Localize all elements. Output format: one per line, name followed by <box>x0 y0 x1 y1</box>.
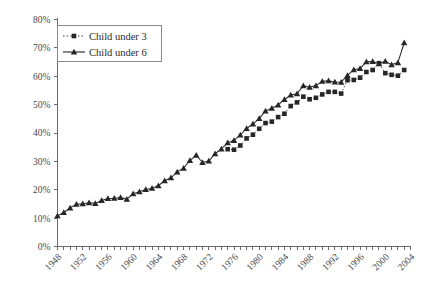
y-tick-label: 50% <box>33 100 51 110</box>
x-tick-label: 1952 <box>68 252 89 273</box>
data-point-marker <box>232 147 237 152</box>
x-tick-label: 1968 <box>169 252 190 273</box>
data-point-marker <box>161 177 167 183</box>
data-point-marker <box>257 126 262 131</box>
chart-legend: Child under 3Child under 6 <box>57 25 161 61</box>
x-tick-label: 1972 <box>194 252 215 273</box>
x-tick-label: 1960 <box>119 252 140 273</box>
data-point-marker <box>263 121 268 126</box>
data-point-marker <box>61 209 67 215</box>
x-tick-label: 2004 <box>396 252 417 273</box>
data-point-marker <box>313 82 319 88</box>
y-tick-label: 30% <box>33 157 51 167</box>
x-axis-group: 1948195219561960196419681972197619801984… <box>43 247 417 273</box>
x-tick-label: 1956 <box>93 252 114 273</box>
line-chart: 0%10%20%30%40%50%60%70%80% 1948195219561… <box>0 0 438 293</box>
y-tick-label: 0% <box>38 242 51 252</box>
data-point-marker <box>193 152 199 158</box>
x-tick-label: 1992 <box>320 252 341 273</box>
x-tick-label: 1948 <box>43 252 64 273</box>
data-point-marker <box>383 71 388 76</box>
x-axis-ticks: 1948195219561960196419681972197619801984… <box>43 252 417 273</box>
series-layer <box>54 40 407 219</box>
y-tick-label: 60% <box>33 72 51 82</box>
y-tick-label: 40% <box>33 128 51 138</box>
data-point-marker <box>320 92 325 97</box>
data-point-marker <box>270 119 275 124</box>
legend-label: Child under 3 <box>89 31 147 42</box>
data-point-marker <box>402 68 407 73</box>
data-point-marker <box>389 73 394 78</box>
data-point-marker <box>243 125 249 131</box>
data-point-marker <box>325 78 331 84</box>
data-point-marker <box>174 169 180 175</box>
y-tick-label: 20% <box>33 185 51 195</box>
data-point-marker <box>244 136 249 141</box>
data-point-marker <box>345 78 350 83</box>
data-point-marker <box>251 132 256 137</box>
data-point-marker <box>117 194 123 200</box>
chart-container: 0%10%20%30%40%50%60%70%80% 1948195219561… <box>0 0 438 293</box>
data-point-marker <box>395 59 401 65</box>
data-point-marker <box>382 58 388 64</box>
data-point-marker <box>295 100 300 105</box>
y-axis-group: 0%10%20%30%40%50%60%70%80% <box>33 15 57 252</box>
data-point-marker <box>351 78 356 83</box>
x-tick-label: 1984 <box>270 252 291 273</box>
series-2 <box>54 40 407 219</box>
data-point-marker <box>281 96 287 102</box>
data-point-marker <box>238 143 243 148</box>
data-point-marker <box>269 105 275 111</box>
data-point-marker <box>314 96 319 101</box>
x-tick-label: 1996 <box>345 252 366 273</box>
data-point-marker <box>67 205 73 211</box>
data-point-marker <box>282 111 287 116</box>
x-tick-label: 1976 <box>219 252 240 273</box>
x-tick-label: 1980 <box>245 252 266 273</box>
data-point-marker <box>225 147 230 152</box>
x-tick-label: 1988 <box>295 252 316 273</box>
data-point-marker <box>301 94 306 99</box>
x-tick-label: 2000 <box>371 252 392 273</box>
y-tick-label: 70% <box>33 43 51 53</box>
data-point-marker <box>276 115 281 120</box>
data-point-marker <box>401 40 407 46</box>
y-tick-label: 10% <box>33 214 51 224</box>
data-point-marker <box>300 82 306 88</box>
data-point-marker <box>370 68 375 73</box>
data-point-marker <box>54 213 60 219</box>
legend-marker-square <box>72 34 77 39</box>
data-point-marker <box>364 70 369 75</box>
x-tick-label: 1964 <box>144 252 165 273</box>
series-line <box>58 43 405 216</box>
data-point-marker <box>288 104 293 109</box>
data-point-marker <box>396 73 401 78</box>
data-point-marker <box>326 90 331 95</box>
data-point-marker <box>358 75 363 80</box>
data-point-marker <box>307 97 312 102</box>
y-axis-ticks: 0%10%20%30%40%50%60%70%80% <box>33 15 57 252</box>
legend-label: Child under 6 <box>89 47 147 58</box>
series-1 <box>225 61 406 152</box>
y-tick-label: 80% <box>33 15 51 25</box>
data-point-marker <box>333 90 338 95</box>
data-point-marker <box>86 200 92 206</box>
data-point-marker <box>339 91 344 96</box>
